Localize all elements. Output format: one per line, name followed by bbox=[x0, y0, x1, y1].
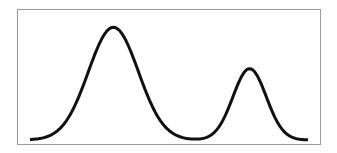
series-line-bimodal-density bbox=[30, 27, 308, 140]
bimodal-curve-chart bbox=[0, 0, 337, 153]
